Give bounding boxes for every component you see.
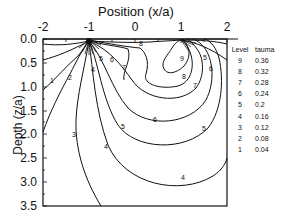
legend-row: 50.2 — [229, 99, 279, 110]
legend-row: 90.36 — [229, 55, 279, 66]
legend-level: 9 — [229, 55, 251, 66]
plot-frame — [43, 39, 227, 206]
contour-label: 6 — [110, 56, 114, 63]
legend-value: 0.28 — [251, 77, 279, 88]
contour-label: 3 — [72, 131, 76, 138]
legend-row: 30.12 — [229, 122, 279, 133]
legend-header-value: tauma — [251, 44, 279, 55]
legend-header-level: Level — [229, 44, 251, 55]
legend-level: 8 — [229, 66, 251, 77]
contour-label: 4 — [181, 174, 185, 181]
contour-label: 5 — [202, 125, 206, 132]
legend-level: 7 — [229, 77, 251, 88]
contour-label: 4 — [104, 143, 108, 150]
legend-header: Level tauma — [229, 44, 279, 55]
contour-label: 6 — [153, 116, 157, 123]
contour-label: 5 — [121, 123, 125, 130]
legend-value: 0.24 — [251, 88, 279, 99]
contour-label: 2 — [68, 74, 72, 81]
contour-label: 5 — [99, 55, 103, 62]
legend-level: 1 — [229, 144, 251, 155]
legend-row: 60.24 — [229, 88, 279, 99]
legend-value: 0.36 — [251, 55, 279, 66]
legend-level: 2 — [229, 133, 251, 144]
legend-value: 0.2 — [251, 99, 279, 110]
contour-label: 5 — [203, 54, 207, 61]
contour-label: 1 — [50, 77, 54, 84]
legend-row: 10.04 — [229, 144, 279, 155]
contour-label: 4 — [91, 66, 95, 73]
contour-label: 7 — [193, 82, 197, 89]
legend-level: 5 — [229, 99, 251, 110]
contour-chart: Position (x/a) -2 -1 0 1 2 0.0 0.5 1.0 1… — [0, 0, 284, 222]
legend-level: 3 — [229, 122, 251, 133]
contour-lines — [43, 39, 227, 206]
legend-row: 20.08 — [229, 133, 279, 144]
contour-level-2 — [43, 41, 89, 132]
contour-level-9 — [163, 40, 189, 73]
contour-label: 8 — [139, 40, 143, 47]
legend-value: 0.08 — [251, 133, 279, 144]
legend-level: 4 — [229, 111, 251, 122]
contour-label: 6 — [209, 65, 213, 72]
legend: Level tauma 90.36 80.32 70.28 60.24 50.2… — [229, 44, 279, 155]
legend-row: 80.32 — [229, 66, 279, 77]
contour-level-6 — [89, 39, 212, 121]
legend-value: 0.32 — [251, 66, 279, 77]
legend-row: 40.16 — [229, 111, 279, 122]
legend-value: 0.16 — [251, 111, 279, 122]
legend-row: 70.28 — [229, 77, 279, 88]
contour-label: 9 — [180, 55, 184, 62]
legend-level: 6 — [229, 88, 251, 99]
legend-value: 0.04 — [251, 144, 279, 155]
legend-value: 0.12 — [251, 122, 279, 133]
contour-label: 7 — [122, 64, 126, 71]
contour-label: 8 — [182, 73, 186, 80]
